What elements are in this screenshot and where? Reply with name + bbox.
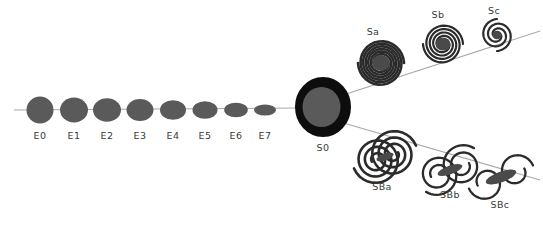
s0-bulge xyxy=(303,87,341,127)
spiral-bulge xyxy=(372,55,390,71)
label-sa: Sa xyxy=(367,26,380,37)
label-e0: E0 xyxy=(34,130,47,141)
label-sb: Sb xyxy=(432,9,445,20)
label-sbc: SBc xyxy=(491,199,510,210)
hubble-tuning-fork-diagram: E0E1E2E3E4E5E6E7S0SaSbScSBaSBbSBc xyxy=(0,0,543,225)
label-sbb: SBb xyxy=(440,189,460,200)
lenticular-galaxy xyxy=(301,83,345,131)
label-e6: E6 xyxy=(230,130,243,141)
label-sc: Sc xyxy=(488,5,500,16)
label-e2: E2 xyxy=(101,130,114,141)
galaxy-e1 xyxy=(60,98,88,123)
galaxy-e2 xyxy=(93,98,121,122)
label-e4: E4 xyxy=(167,130,180,141)
spiral-bulge xyxy=(436,37,451,50)
label-s0: S0 xyxy=(317,142,330,153)
galaxy-e0 xyxy=(27,97,54,124)
galaxy-e5 xyxy=(193,101,218,119)
galaxy-sa xyxy=(358,41,404,84)
spiral-bulge xyxy=(492,31,502,39)
galaxy-e7 xyxy=(254,104,276,115)
label-e5: E5 xyxy=(199,130,212,141)
label-e7: E7 xyxy=(259,130,272,141)
label-e3: E3 xyxy=(134,130,147,141)
label-sba: SBa xyxy=(372,181,392,192)
galaxy-e4 xyxy=(160,100,186,120)
galaxy-e6 xyxy=(224,103,248,118)
diagram-canvas: E0E1E2E3E4E5E6E7S0SaSbScSBaSBbSBc xyxy=(0,0,543,225)
label-e1: E1 xyxy=(68,130,81,141)
galaxy-e3 xyxy=(127,99,154,121)
